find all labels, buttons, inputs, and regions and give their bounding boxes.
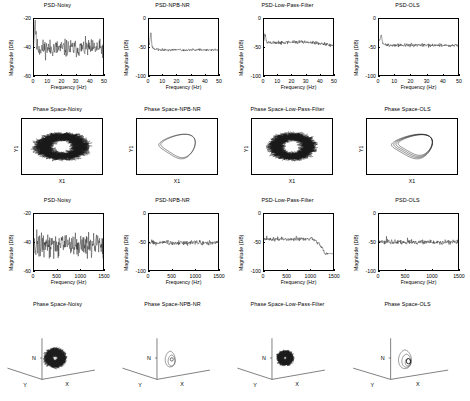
- psd-trace: [263, 18, 334, 76]
- x-axis-label: Frequency (Hz): [263, 84, 334, 90]
- psd-trace: [33, 213, 104, 271]
- x-tick-label: 1500: [210, 273, 228, 279]
- x-axis-label: X1: [251, 178, 333, 184]
- x-tick-mark: [219, 74, 220, 76]
- phase-panel-r2c2: Phase Space-NPB-NRY1X1: [115, 106, 230, 192]
- x-tick-label: 50: [210, 78, 228, 84]
- x-axis-label: X: [295, 381, 299, 387]
- psd-trace: [148, 213, 219, 271]
- x-tick-label: 0: [254, 273, 272, 279]
- x-axis-label: Frequency (Hz): [378, 279, 459, 285]
- phase-trace: [21, 118, 103, 175]
- y-tick-label: 0: [241, 15, 261, 21]
- panel-title: PSD-Low-Pass-Filter: [230, 197, 345, 203]
- psd-panel-r3c1: PSD-NoisyMagnitude (DB)Frequency (Hz)-20…: [0, 197, 115, 295]
- y-tick-label: -50: [356, 239, 376, 245]
- y-tick-label: -40: [11, 239, 31, 245]
- x-tick-label: 0: [24, 273, 42, 279]
- y-axis-label: Y1: [243, 145, 249, 151]
- y-tick-label: 0: [126, 15, 146, 21]
- panel-title: PSD-Noisy: [0, 197, 115, 203]
- x-axis-label: Frequency (Hz): [148, 279, 219, 285]
- psd-panel-r3c4: PSD-OLSMagnitude (DB)Frequency (Hz)0-50-…: [345, 197, 470, 295]
- psd-panel-r1c4: PSD-OLSMagnitude (DB)Frequency (Hz)0-50-…: [345, 2, 470, 100]
- panel-title: PSD-NPB-NR: [115, 197, 230, 203]
- x-tick-label: 1000: [186, 273, 204, 279]
- panel-title: Phase Space-Low-Pass-Filter: [230, 106, 345, 112]
- phase3d-panel-r4c2: Phase Space-NPB-NRNYX: [115, 301, 230, 399]
- x-tick-label: 0: [369, 273, 387, 279]
- x-axis-label: Frequency (Hz): [33, 84, 104, 90]
- panel-title: PSD-Noisy: [0, 2, 115, 8]
- psd-panel-r1c3: PSD-Low-Pass-FilterMagnitude (DB)Frequen…: [230, 2, 345, 100]
- x-tick-label: 50: [450, 78, 468, 84]
- x-tick-label: 500: [48, 273, 66, 279]
- x-tick-mark: [334, 269, 335, 271]
- x-tick-label: 1000: [301, 273, 319, 279]
- y-axis-label: Y: [23, 382, 27, 388]
- panel-title: PSD-OLS: [345, 2, 470, 8]
- psd-trace: [148, 18, 219, 76]
- psd-trace: [33, 18, 104, 76]
- z-axis-label: N: [147, 355, 151, 361]
- axes-3d: [0, 301, 115, 399]
- panel-title: PSD-Low-Pass-Filter: [230, 2, 345, 8]
- figure-panel-grid: PSD-NoisyMagnitude (DB)Frequency (Hz)-20…: [0, 0, 470, 401]
- phase3d-panel-r4c1: Phase Space-NoisyNYX: [0, 301, 115, 399]
- y-axis-label: Y: [253, 382, 257, 388]
- panel-title: Phase Space-NPB-NR: [115, 106, 230, 112]
- y-tick-label: 0: [241, 210, 261, 216]
- x-axis-label: Frequency (Hz): [263, 279, 334, 285]
- phase-panel-r2c1: Phase Space-NoisyY1X1: [0, 106, 115, 192]
- x-tick-label: 1000: [423, 273, 441, 279]
- axes-3d: [230, 301, 345, 399]
- psd-trace: [378, 213, 459, 271]
- x-tick-mark: [459, 269, 460, 271]
- psd-panel-r1c1: PSD-NoisyMagnitude (DB)Frequency (Hz)-20…: [0, 2, 115, 100]
- x-axis-label: Frequency (Hz): [148, 84, 219, 90]
- panel-title: Phase Space-OLS: [345, 106, 470, 112]
- y-axis-label: Y1: [128, 145, 134, 151]
- psd-panel-r3c2: PSD-NPB-NRMagnitude (DB)Frequency (Hz)0-…: [115, 197, 230, 295]
- x-axis-label: X: [65, 381, 69, 387]
- x-tick-mark: [334, 74, 335, 76]
- x-axis-label: X: [180, 381, 184, 387]
- y-tick-label: 0: [356, 15, 376, 21]
- y-tick-label: -20: [11, 210, 31, 216]
- x-axis-label: Frequency (Hz): [33, 279, 104, 285]
- z-axis-label: N: [32, 355, 36, 361]
- phase-trace: [366, 118, 458, 175]
- psd-panel-r1c2: PSD-NPB-NRMagnitude (DB)Frequency (Hz)0-…: [115, 2, 230, 100]
- axes-3d: [115, 301, 230, 399]
- x-axis-label: X: [416, 381, 420, 387]
- x-tick-mark: [104, 269, 105, 271]
- y-tick-label: -40: [11, 44, 31, 50]
- psd-trace: [263, 213, 334, 271]
- phase3d-panel-r4c4: Phase Space-OLSNYX: [345, 301, 470, 399]
- y-tick-label: -50: [356, 44, 376, 50]
- y-tick-label: -50: [241, 239, 261, 245]
- phase-trace: [251, 118, 333, 175]
- x-tick-label: 500: [278, 273, 296, 279]
- phase-trace: [136, 118, 218, 175]
- x-axis-label: X1: [136, 178, 218, 184]
- y-axis-label: Y1: [13, 145, 19, 151]
- x-axis-label: X1: [366, 178, 458, 184]
- x-tick-mark: [104, 74, 105, 76]
- phase-panel-r2c3: Phase Space-Low-Pass-FilterY1X1: [230, 106, 345, 192]
- y-tick-label: 0: [126, 210, 146, 216]
- psd-trace: [378, 18, 459, 76]
- panel-title: PSD-NPB-NR: [115, 2, 230, 8]
- x-axis-label: Frequency (Hz): [378, 84, 459, 90]
- x-tick-label: 1500: [450, 273, 468, 279]
- y-axis-label: Y: [138, 382, 142, 388]
- psd-panel-r3c3: PSD-Low-Pass-FilterMagnitude (DB)Frequen…: [230, 197, 345, 295]
- y-axis-label: Y1: [358, 145, 364, 151]
- x-tick-label: 1500: [95, 273, 113, 279]
- y-tick-label: -20: [11, 15, 31, 21]
- panel-title: Phase Space-Noisy: [0, 106, 115, 112]
- x-axis-label: X1: [21, 178, 103, 184]
- panel-title: PSD-OLS: [345, 197, 470, 203]
- x-tick-label: 1500: [325, 273, 343, 279]
- y-tick-label: -50: [241, 44, 261, 50]
